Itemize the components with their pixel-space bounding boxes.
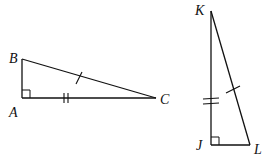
diagram-canvas: B A C K J L xyxy=(0,0,270,158)
segment-kl xyxy=(211,11,250,145)
segment-bc xyxy=(22,59,156,98)
vertex-label-a: A xyxy=(8,105,18,120)
triangle-abc: B A C xyxy=(8,51,170,120)
right-angle-marker-j xyxy=(211,137,219,145)
tick-mark-kj-2 xyxy=(203,103,219,104)
triangle-jkl: K J L xyxy=(194,3,262,157)
tick-mark-kj-1 xyxy=(203,98,219,99)
vertex-label-c: C xyxy=(160,92,170,107)
vertex-label-j: J xyxy=(196,138,203,153)
right-angle-marker-a xyxy=(22,90,30,98)
vertex-label-b: B xyxy=(9,51,18,66)
vertex-label-k: K xyxy=(194,3,205,18)
vertex-label-l: L xyxy=(253,142,262,157)
tick-mark-bc xyxy=(76,72,82,84)
